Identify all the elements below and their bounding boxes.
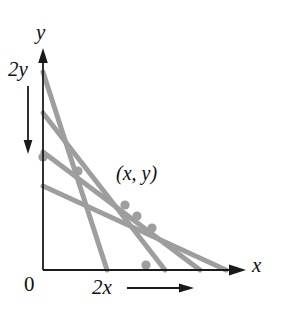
two-y-down-arrowhead	[24, 140, 33, 154]
dot-x-axis	[141, 260, 150, 269]
line-4	[43, 186, 226, 270]
point-xy-label: (x, y)	[116, 163, 157, 183]
two-x-right-arrowhead	[179, 284, 194, 293]
dot-mid-1	[120, 200, 129, 209]
diagram-canvas	[0, 0, 285, 318]
line-2	[43, 113, 165, 270]
dot-mid-3	[147, 223, 156, 232]
origin-label: 0	[24, 274, 35, 295]
two-x-label: 2x	[92, 277, 112, 298]
dot-upper	[73, 166, 82, 175]
y-axis-label: y	[36, 22, 45, 43]
x-axis-arrowhead	[229, 265, 246, 276]
dot-mid-2	[132, 211, 141, 220]
x-axis-label: x	[252, 255, 261, 276]
y-axis-arrowhead	[38, 48, 48, 63]
two-y-label: 2y	[8, 59, 28, 80]
